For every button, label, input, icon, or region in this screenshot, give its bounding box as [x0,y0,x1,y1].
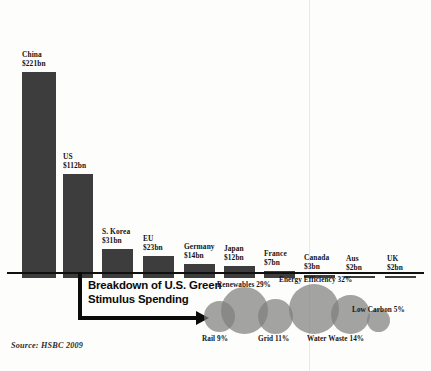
bar-group-us[interactable]: US $112bn [63,174,93,278]
bar-value-aus: $2bn [346,264,362,273]
bar-value-china: $221bn [22,60,46,69]
bar-us[interactable] [63,174,93,278]
bar-label-us: US $112bn [63,153,86,170]
bubble-water-waste[interactable] [331,295,370,334]
bar-label-s-korea: S. Korea $31bn [102,228,130,245]
bar-value-france: $7bn [264,259,287,268]
bubble-label-low-carbon: Low Carbon 5% [352,306,405,314]
bar-label-japan: Japan $12bn [224,245,244,262]
bubble-label-rail: Rail 9% [202,335,228,343]
bar-label-eu: EU $23bn [143,235,163,252]
green-stimulus-bar-chart: China $221bn US $112bn S. Korea $31bn EU [0,0,431,278]
bar-value-germany: $14bn [184,252,215,261]
bar-value-s-korea: $31bn [102,237,130,246]
bar-label-china: China $221bn [22,51,46,68]
bar-value-eu: $23bn [143,244,163,253]
chart-canvas: China $221bn US $112bn S. Korea $31bn EU [0,0,431,371]
bar-label-france: France $7bn [264,250,287,267]
bar-label-germany: Germany $14bn [184,243,215,260]
bubble-label-energy-efficiency: Energy Efficiency 32% [279,276,352,284]
bar-value-japan: $12bn [224,254,244,263]
bar-china[interactable] [22,72,56,278]
bar-value-canada: $3bn [304,263,329,272]
bar-value-us: $112bn [63,162,86,171]
callout-arrow-shaft [78,316,198,320]
bar-label-uk: UK $2bn [387,255,403,272]
bubble-label-renewables: Renewables 29% [217,281,271,289]
bar-value-uk: $2bn [387,264,403,273]
source-note: Source: HSBC 2009 [11,341,83,350]
bubble-label-grid: Grid 11% [258,335,289,343]
callout-arrow-stem [78,272,82,320]
bar-label-canada: Canada $3bn [304,254,329,271]
bar-label-aus: Aus $2bn [346,255,362,272]
bar-group-china[interactable]: China $221bn [22,72,56,278]
bubble-label-water-waste: Water Waste 14% [307,335,364,343]
bubble-grid[interactable] [258,299,293,334]
stimulus-breakdown-bubble-chart: Rail 9% Renewables 29% Grid 11% Energy E… [196,278,431,358]
